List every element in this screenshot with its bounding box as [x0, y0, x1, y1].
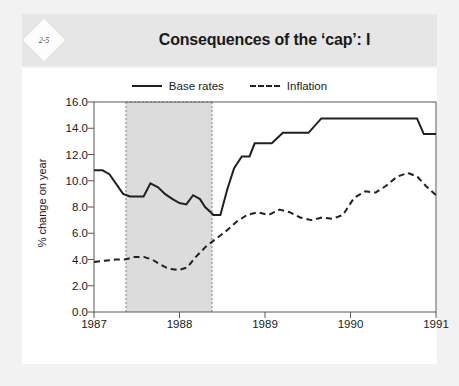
- legend-label-inflation: Inflation: [287, 80, 327, 92]
- x-axis-tick-labels: 1987 1988 1989 1990 1991: [22, 318, 437, 338]
- y-axis-ticks: [88, 102, 94, 312]
- x-tick-1989: 1989: [252, 318, 278, 330]
- solid-line-swatch-icon: [132, 85, 162, 87]
- legend-item-base-rates: Base rates: [132, 80, 224, 92]
- slide-header-band: Consequences of the ‘cap’: I: [22, 14, 437, 66]
- chart-card: Base rates Inflation % change on year 16…: [22, 68, 437, 364]
- x-tick-1988: 1988: [167, 318, 193, 330]
- slide-number-badge: 2-5: [21, 17, 67, 63]
- page-title: Consequences of the ‘cap’: I: [92, 14, 437, 66]
- slide-number-label: 2-5: [21, 17, 67, 63]
- dashed-line-swatch-icon: [250, 85, 280, 87]
- legend-item-inflation: Inflation: [250, 80, 327, 92]
- slide-background: Consequences of the ‘cap’: I 2-5 Base ra…: [0, 0, 459, 386]
- plot-area: % change on year 16.0 14.0 12.0 10.0 8.0…: [22, 102, 437, 364]
- legend-label-base-rates: Base rates: [169, 80, 224, 92]
- chart-legend: Base rates Inflation: [22, 80, 437, 92]
- cap-period-shading: [126, 102, 212, 312]
- x-tick-1990: 1990: [338, 318, 364, 330]
- x-tick-1991: 1991: [423, 318, 449, 330]
- x-tick-1987: 1987: [81, 318, 107, 330]
- chart-svg: [22, 102, 437, 342]
